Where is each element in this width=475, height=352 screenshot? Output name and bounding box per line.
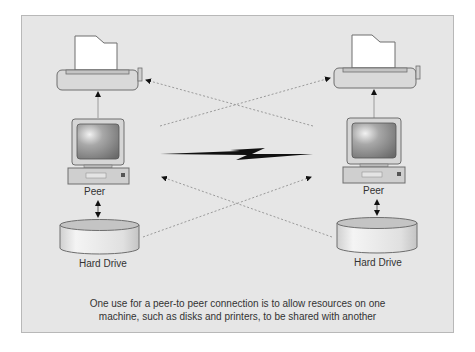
right-printer [334, 35, 420, 88]
printer-icon [57, 36, 142, 90]
left-printer [57, 36, 142, 90]
caption-line-1: One use for a peer-to peer connection is… [21, 297, 454, 310]
left-peer-label: Peer [84, 186, 105, 197]
printer-icon [334, 35, 420, 88]
arrow-right-peer-disk [374, 199, 380, 216]
desktop-computer-icon [343, 118, 405, 183]
hard-drive-icon [337, 218, 417, 254]
right-hard-drive-label: Hard Drive [354, 257, 402, 268]
desktop-computer-icon [68, 119, 129, 184]
left-hard-drive [60, 220, 139, 255]
hard-drive-icon [60, 220, 139, 255]
right-computer [343, 118, 405, 183]
dashed-line-left-disk-to-right-peer [143, 177, 311, 237]
resource-share-lines [143, 78, 332, 237]
left-hard-drive-label: Hard Drive [79, 258, 127, 269]
right-hard-drive [337, 218, 417, 254]
right-peer-label: Peer [363, 185, 384, 196]
lightning-bolt-icon [160, 148, 313, 160]
caption-line-2: machine, such as disks and printers, to … [21, 310, 454, 323]
left-computer [68, 119, 129, 184]
arrow-left-peer-disk [95, 200, 101, 218]
dashed-line-left-peer-to-right-printer [160, 78, 330, 126]
dashed-line-right-peer-to-left-printer [146, 80, 313, 126]
diagram-caption: One use for a peer-to peer connection is… [21, 297, 454, 323]
dashed-line-right-disk-to-left-peer [162, 177, 332, 237]
